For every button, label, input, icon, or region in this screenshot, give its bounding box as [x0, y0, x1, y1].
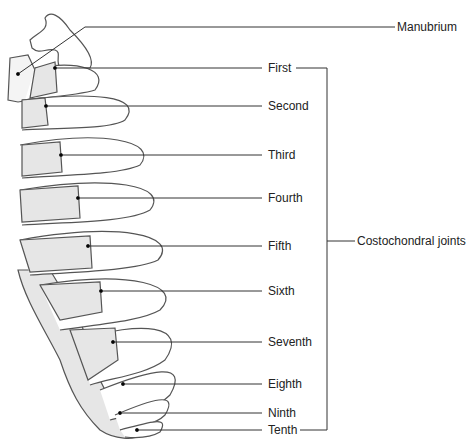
- joint-label-third: Third: [268, 148, 295, 162]
- costochondral-bracket: [296, 68, 355, 430]
- joint-label-eighth: Eighth: [268, 377, 302, 391]
- joint-label-fourth: Fourth: [268, 191, 303, 205]
- costochondral-joints-label: Costochondral joints: [357, 234, 466, 248]
- joint-label-first: First: [268, 61, 291, 75]
- joint-label-sixth: Sixth: [268, 284, 295, 298]
- manubrium-shape: [30, 14, 91, 68]
- manubrium-label: Manubrium: [397, 20, 457, 34]
- joint-label-tenth: Tenth: [268, 423, 297, 437]
- joint-label-second: Second: [268, 99, 309, 113]
- joint-label-seventh: Seventh: [268, 335, 312, 349]
- joint-label-fifth: Fifth: [268, 239, 291, 253]
- joint-label-ninth: Ninth: [268, 406, 296, 420]
